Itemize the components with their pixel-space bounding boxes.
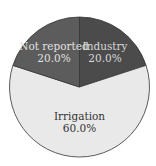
pie-chart <box>0 0 156 166</box>
slice-label-not-reported: Not reported 20.0% <box>19 40 89 64</box>
slice-name: Not reported <box>19 40 89 52</box>
slice-value: 60.0% <box>54 122 105 134</box>
slice-name: Industry <box>83 40 128 52</box>
slice-label-irrigation: Irrigation 60.0% <box>54 110 105 134</box>
slice-value: 20.0% <box>19 52 89 64</box>
slice-name: Irrigation <box>54 110 105 122</box>
pie-slices <box>9 17 149 157</box>
slice-value: 20.0% <box>83 52 128 64</box>
slice-label-industry: Industry 20.0% <box>83 40 128 64</box>
